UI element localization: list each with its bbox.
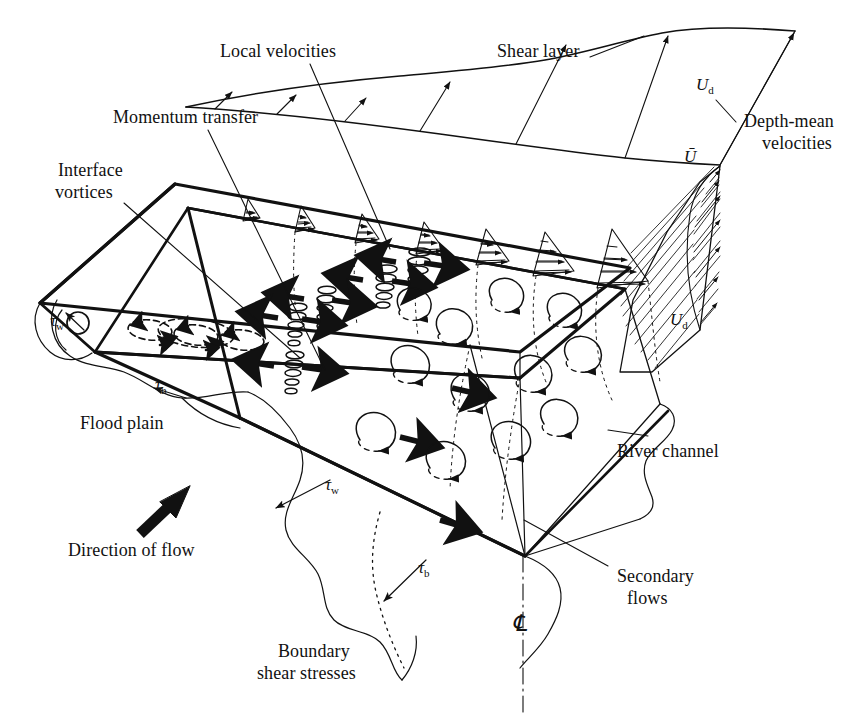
u-bar-base: Ū <box>684 147 696 166</box>
tau-w-left-sub: w <box>56 320 64 332</box>
label-interface-vortices-line2: vortices <box>55 182 113 203</box>
symbol-u-d-top: Ud <box>696 75 714 96</box>
label-river-channel: River channel <box>617 441 719 462</box>
symbol-tau-b-right: τb <box>418 558 430 579</box>
u-d-top-sub: d <box>708 84 714 96</box>
symbol-tau-b-left: τb <box>155 375 167 396</box>
label-interface-vortices-line1: Interface <box>58 160 123 181</box>
label-depth-mean-velocities-line1: Depth-mean <box>744 111 834 132</box>
symbol-centreline: ℄ <box>512 610 527 637</box>
u-d-right-base: U <box>670 310 682 329</box>
tau-w-mid-sub: w <box>331 484 339 496</box>
label-local-velocities: Local velocities <box>220 41 336 62</box>
symbol-tau-w-mid: τw <box>325 475 339 496</box>
u-d-right-sub: d <box>682 319 688 331</box>
u-d-top-base: U <box>696 75 708 94</box>
label-direction-of-flow: Direction of flow <box>68 540 195 561</box>
figure-canvas: Local velocities Shear layer Momentum tr… <box>0 0 855 728</box>
label-depth-mean-velocities-line2: velocities <box>762 133 832 154</box>
direction-of-flow-arrow <box>140 486 190 534</box>
tau-b-right-sub: b <box>424 567 430 579</box>
label-secondary-flows-line1: Secondary <box>617 566 694 587</box>
tau-b-left-sub: b <box>161 384 167 396</box>
flood-plain-block <box>40 184 630 378</box>
depth-velocity-hatched-panel <box>620 166 720 372</box>
symbol-u-d-right: Ud <box>670 310 688 331</box>
label-flood-plain: Flood plain <box>80 413 164 434</box>
momentum-transfer-arrows <box>236 256 492 531</box>
label-boundary-shear-stresses-line1: Boundary <box>278 641 350 662</box>
symbol-tau-w-left: τw <box>50 311 64 332</box>
floodplain-vortex-street <box>127 315 265 352</box>
label-secondary-flows-line2: flows <box>627 588 668 609</box>
label-boundary-shear-stresses-line2: shear stresses <box>257 663 356 684</box>
local-velocity-profiles <box>243 199 648 288</box>
label-momentum-transfer: Momentum transfer <box>113 107 258 128</box>
label-shear-layer: Shear layer <box>497 41 580 62</box>
symbol-u-bar: Ū <box>684 147 696 167</box>
